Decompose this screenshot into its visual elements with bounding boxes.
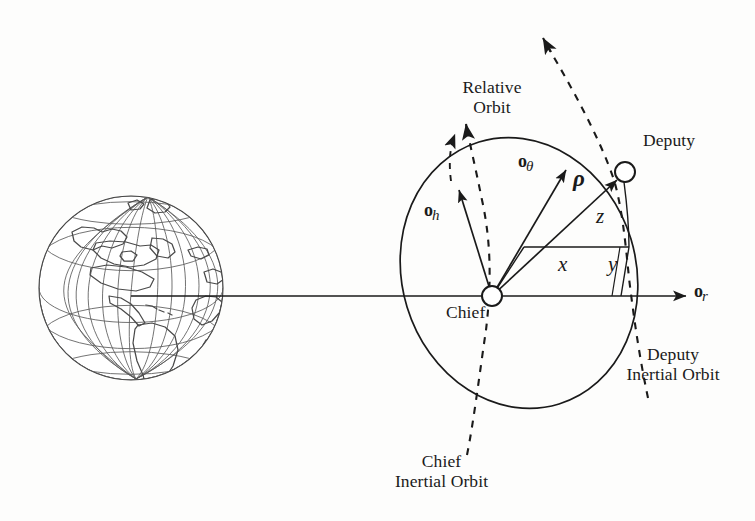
x-component-label: x	[558, 253, 567, 277]
o-theta-subscript: θ	[526, 158, 533, 174]
deputy-inertial-orbit-label: DeputyInertial Orbit	[608, 345, 738, 384]
z-component-label: z	[596, 205, 604, 229]
deputy-label: Deputy	[643, 131, 695, 151]
chief-inertial-orbit-label: ChiefInertial Orbit	[369, 452, 514, 491]
relative-orbit-label: RelativeOrbit	[437, 78, 547, 117]
o-r-subscript: r	[702, 288, 708, 304]
relative-orbit-direction-arrow	[450, 134, 455, 181]
diagram-canvas	[0, 0, 755, 521]
relative-orbit-figure: RelativeOrbit Deputy Chief DeputyInertia…	[0, 0, 755, 521]
z-component-line	[624, 182, 629, 247]
o-h-subscript: h	[432, 207, 440, 223]
o-theta-vector-label: oθ	[518, 151, 535, 171]
deputy-inertial-orbit-arrow	[543, 38, 551, 52]
o-h-vector-arrow	[459, 190, 492, 296]
rho-vector-arrow	[492, 180, 617, 296]
chief-label: Chief	[446, 303, 485, 323]
rho-vector-label: ρ	[573, 166, 585, 192]
earth-globe	[39, 180, 224, 395]
deputy-node-marker[interactable]	[615, 162, 635, 182]
o-r-vector-label: or	[694, 281, 709, 301]
chief-inertial-orbit-arrow	[466, 124, 468, 136]
y-component-label: y	[608, 253, 617, 277]
o-h-vector-label: oh	[424, 200, 441, 220]
o-theta-vector-arrow	[492, 170, 566, 296]
